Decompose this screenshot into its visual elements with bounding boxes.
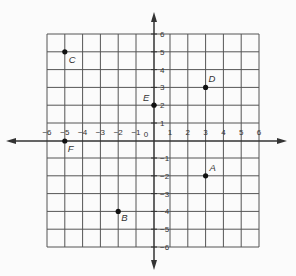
x-tick-label: −6: [42, 128, 52, 137]
point-b: [116, 209, 121, 214]
y-tick-label: −5: [160, 225, 170, 234]
arrow-up-icon: [151, 12, 157, 22]
x-tick-label: −5: [60, 128, 70, 137]
y-tick-label: 2: [160, 101, 165, 110]
x-tick-label: 6: [257, 128, 262, 137]
point-label-d: D: [209, 73, 216, 84]
y-tick-label: 4: [160, 66, 165, 75]
point-label-c: C: [69, 54, 76, 65]
arrow-right-icon: [277, 138, 287, 144]
y-tick-label: 3: [160, 83, 165, 92]
arrow-left-icon: [6, 138, 16, 144]
point-label-a: A: [209, 162, 216, 173]
point-label-f: F: [68, 143, 75, 154]
y-tick-label: 6: [160, 30, 165, 39]
y-tick-label: −4: [160, 207, 170, 216]
y-tick-label: −1: [160, 154, 170, 163]
x-tick-label: 4: [221, 128, 226, 137]
y-tick-label: 5: [160, 48, 165, 57]
x-tick-label: −1: [131, 128, 141, 137]
y-tick-label: −2: [160, 172, 170, 181]
x-tick-label: −4: [78, 128, 88, 137]
point-d: [203, 85, 208, 90]
coordinate-plane: −6−5−4−3−2−10123456 −6−5−4−3−2−1123456 A…: [0, 0, 296, 276]
x-tick-labels: −6−5−4−3−2−10123456: [42, 128, 261, 139]
axes: [6, 12, 287, 270]
point-a: [203, 173, 208, 178]
y-tick-label: 1: [160, 119, 165, 128]
point-c: [62, 49, 67, 54]
y-tick-label: −6: [160, 243, 170, 252]
point-f: [62, 138, 67, 143]
x-tick-label: −3: [96, 128, 106, 137]
x-tick-label: 2: [186, 128, 191, 137]
x-tick-label: −2: [114, 128, 124, 137]
arrow-down-icon: [151, 260, 157, 270]
x-tick-label: 3: [203, 128, 208, 137]
x-tick-label: 0: [144, 130, 149, 139]
x-tick-label: 1: [168, 128, 173, 137]
point-label-e: E: [143, 92, 150, 103]
y-tick-label: −3: [160, 190, 170, 199]
x-tick-label: 5: [239, 128, 244, 137]
point-e: [151, 103, 156, 108]
point-label-b: B: [121, 212, 128, 223]
